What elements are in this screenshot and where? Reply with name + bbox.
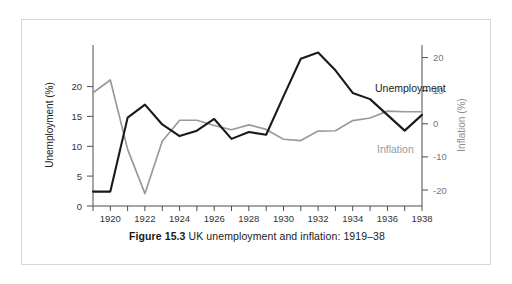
right-axis-ticks: 20 10 0 -10 -20 xyxy=(422,52,447,195)
left-tick-label-5: 5 xyxy=(77,171,82,182)
x-tick-label-1924: 1924 xyxy=(169,213,190,224)
inflation-series-label: Inflation xyxy=(377,143,414,155)
x-tick-label-1926: 1926 xyxy=(204,213,225,224)
bottom-axis-ticks: 1920 1922 1924 1926 1928 1930 1932 1934 … xyxy=(93,206,433,224)
caption-text: UK unemployment and inflation: 1919–38 xyxy=(189,230,385,242)
x-tick-label-1920: 1920 xyxy=(100,213,121,224)
right-tick-label-0: 0 xyxy=(433,118,438,129)
x-tick-label-1928: 1928 xyxy=(238,213,259,224)
left-tick-label-15: 15 xyxy=(71,111,82,122)
left-tick-label-20: 20 xyxy=(71,81,82,92)
left-tick-label-10: 10 xyxy=(71,141,82,152)
right-tick-label-neg20: -20 xyxy=(433,185,447,196)
unemployment-line xyxy=(93,53,422,192)
unemployment-series-label: Unemployment xyxy=(375,82,446,94)
figure-frame: 0 5 10 15 20 20 10 0 -10 -20 xyxy=(21,19,491,265)
chart-svg: 0 5 10 15 20 20 10 0 -10 -20 xyxy=(22,20,492,232)
inflation-line xyxy=(93,80,422,194)
x-tick-label-1936: 1936 xyxy=(377,213,398,224)
x-tick-label-1922: 1922 xyxy=(134,213,155,224)
figure-caption: Figure 15.3 UK unemployment and inflatio… xyxy=(22,230,492,242)
right-tick-label-neg10: -10 xyxy=(433,151,447,162)
x-tick-label-1932: 1932 xyxy=(308,213,329,224)
left-tick-label-0: 0 xyxy=(77,201,82,212)
x-tick-label-1938: 1938 xyxy=(411,213,432,224)
caption-label: Figure 15.3 xyxy=(129,230,186,242)
right-tick-label-20: 20 xyxy=(433,52,444,63)
x-tick-label-1930: 1930 xyxy=(273,213,294,224)
left-axis-title: Unemployment (%) xyxy=(44,82,55,168)
chart-area: 0 5 10 15 20 20 10 0 -10 -20 xyxy=(22,20,492,232)
x-tick-label-1934: 1934 xyxy=(342,213,363,224)
right-axis-title: Inflation (%) xyxy=(456,98,467,151)
left-axis-ticks: 0 5 10 15 20 xyxy=(71,81,93,211)
